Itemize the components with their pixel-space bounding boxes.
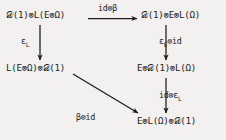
node-top-left: 𝒟(1)⊗L(E⊗Ω) <box>6 9 65 20</box>
id-tensor-epsilon-glyph: id⊗ε <box>159 90 178 100</box>
arrow-label-diagonal: β⊗id <box>76 112 95 122</box>
node-middle-left: L(E⊗Ω)⊗𝒟(1) <box>6 62 65 73</box>
arrow-diagonal <box>73 74 138 113</box>
arrow-label-top-text: id⊗β <box>98 3 117 13</box>
tensor-id-text: ⊗id <box>167 36 181 46</box>
arrow-label-right-vertical-lower: id⊗εL <box>159 90 182 104</box>
node-middle-right: E⊗𝒟(1)⊗L(Ω) <box>137 62 196 73</box>
epsilon-subscript: L <box>178 95 182 102</box>
arrow-label-diagonal-text: β⊗id <box>76 112 95 122</box>
arrow-label-top-horizontal: id⊗β <box>98 3 117 13</box>
node-bottom-right: E⊗L(Ω)⊗𝒟(1) <box>137 115 196 126</box>
epsilon-subscript: L <box>26 41 30 48</box>
commutative-diagram: 𝒟(1)⊗L(E⊗Ω) 𝒟(1)⊗E⊗L(Ω) L(E⊗Ω)⊗𝒟(1) E⊗𝒟(… <box>0 0 226 140</box>
arrow-label-left-vertical: εL <box>21 36 29 50</box>
arrow-label-right-vertical-upper: εE⊗id <box>159 36 182 50</box>
node-top-right: 𝒟(1)⊗E⊗L(Ω) <box>141 9 200 20</box>
